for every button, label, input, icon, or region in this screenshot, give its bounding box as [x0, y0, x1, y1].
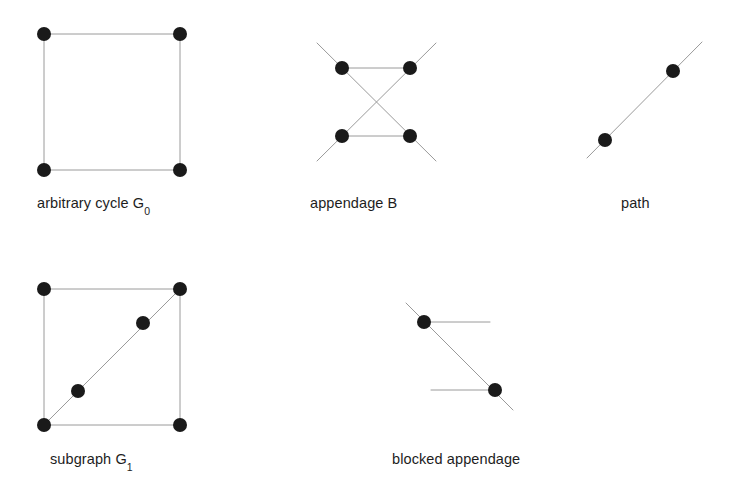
graph-panel-blocked-appendage [406, 303, 513, 410]
graph-node [335, 61, 349, 75]
caption-blocked-appendage-text: blocked appendage [392, 451, 520, 467]
graph-panel-arbitrary-cycle [37, 27, 187, 177]
caption-path-text: path [621, 195, 650, 211]
graph-node [37, 27, 51, 41]
caption-subgraph-subscript: 1 [127, 461, 133, 473]
caption-appendage-text: appendage B [310, 195, 397, 211]
graph-node [666, 64, 680, 78]
graph-node [37, 418, 51, 432]
graph-node [403, 61, 417, 75]
caption-arbitrary-cycle-text: arbitrary cycle G [37, 195, 144, 211]
graph-node [173, 418, 187, 432]
graph-panel-subgraph [37, 282, 187, 432]
caption-arbitrary-cycle: arbitrary cycle G0 [37, 196, 150, 213]
graph-node [173, 163, 187, 177]
caption-subgraph: subgraph G1 [50, 452, 133, 469]
graph-node [488, 383, 502, 397]
graph-node [71, 384, 85, 398]
graph-node [335, 129, 349, 143]
graph-node [173, 27, 187, 41]
caption-blocked-appendage: blocked appendage [392, 452, 520, 469]
graph-node [403, 129, 417, 143]
caption-arbitrary-cycle-subscript: 0 [144, 205, 150, 217]
graph-figure-canvas [0, 0, 731, 496]
graph-node [417, 315, 431, 329]
caption-path: path [621, 196, 650, 213]
figure-root: arbitrary cycle G0 appendage B path subg… [0, 0, 731, 496]
graph-node [598, 133, 612, 147]
graph-node [173, 282, 187, 296]
graph-node [37, 282, 51, 296]
caption-subgraph-text: subgraph G [50, 451, 127, 467]
caption-appendage: appendage B [310, 196, 397, 213]
graph-panel-appendage [317, 43, 436, 161]
graph-node [136, 316, 150, 330]
graph-panel-path [587, 42, 702, 158]
graph-edge [44, 289, 180, 425]
graph-node [37, 163, 51, 177]
